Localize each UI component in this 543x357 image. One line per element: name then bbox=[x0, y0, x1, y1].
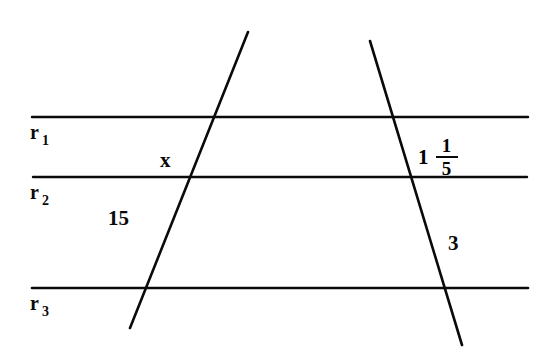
geometry-figure: r1 r2 r3 x 15 3 1 1 5 bbox=[0, 0, 543, 357]
label-line-r2-base: r bbox=[30, 181, 39, 203]
label-line-r2-subscript: 2 bbox=[42, 193, 49, 208]
label-line-r1-base: r bbox=[30, 121, 39, 143]
fraction-numerator: 1 bbox=[439, 136, 455, 156]
fraction-denominator: 5 bbox=[439, 158, 455, 178]
label-segment-3: 3 bbox=[448, 233, 459, 254]
label-segment-mixed-number: 1 1 5 bbox=[418, 136, 458, 178]
label-line-r1: r1 bbox=[30, 122, 46, 142]
figure-canvas bbox=[0, 0, 543, 357]
mixed-number-whole: 1 bbox=[418, 147, 429, 168]
fraction: 1 5 bbox=[436, 136, 458, 178]
label-line-r3-base: r bbox=[30, 292, 39, 314]
label-line-r3: r3 bbox=[30, 293, 46, 313]
label-segment-15: 15 bbox=[108, 208, 129, 229]
right-transversal-line bbox=[370, 41, 462, 345]
left-transversal-line bbox=[130, 32, 248, 328]
label-line-r2: r2 bbox=[30, 182, 46, 202]
label-line-r3-subscript: 3 bbox=[42, 304, 49, 319]
label-segment-x: x bbox=[160, 150, 171, 171]
label-line-r1-subscript: 1 bbox=[42, 133, 49, 148]
